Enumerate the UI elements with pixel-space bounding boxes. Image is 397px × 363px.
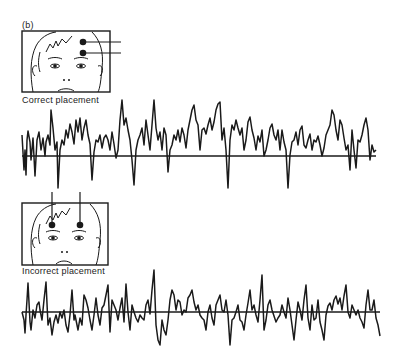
eeg-trace-incorrect xyxy=(22,270,380,345)
eeg-trace-correct xyxy=(22,100,376,188)
face-illustration-incorrect xyxy=(22,203,108,265)
face-illustration-correct xyxy=(22,31,110,92)
figure-canvas xyxy=(0,0,397,363)
electrodes-incorrect xyxy=(49,192,84,228)
electrodes-correct xyxy=(80,39,121,57)
